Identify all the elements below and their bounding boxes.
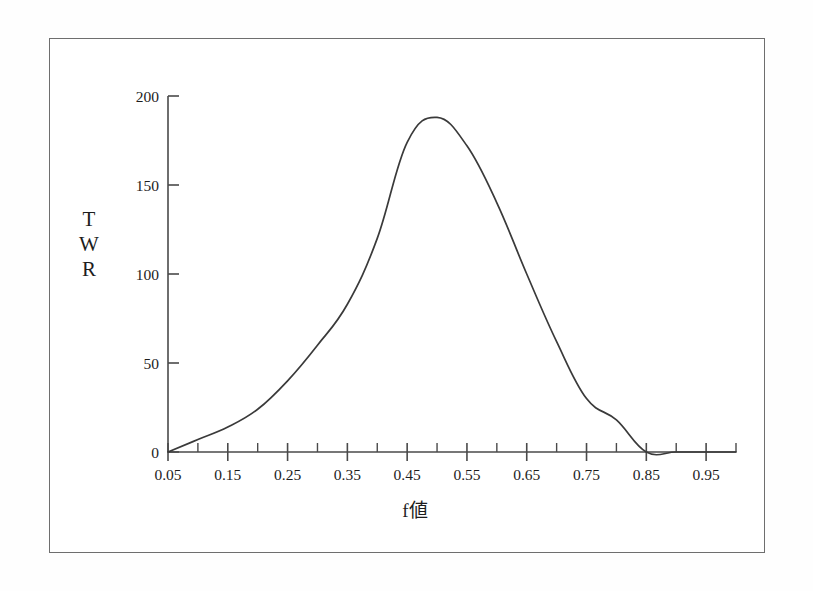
y-axis-tick-labels: 050100150200 [136,88,160,461]
x-tick-label-0.95: 0.95 [693,466,720,483]
y-tick-label-0: 0 [151,444,159,461]
figure-root: 050100150200 0.050.150.250.350.450.550.6… [0,0,813,591]
y-axis-title-line-3: R [72,257,106,282]
x-tick-label-0.45: 0.45 [394,466,421,483]
x-tick-label-0.55: 0.55 [453,466,480,483]
x-tick-label-0.75: 0.75 [573,466,600,483]
y-axis-ticks [168,96,179,452]
x-tick-label-0.05: 0.05 [154,466,181,483]
x-axis-title: f値 [330,495,500,522]
x-tick-label-0.85: 0.85 [633,466,660,483]
twr-curve [168,117,736,454]
y-axis-title: T W R [72,207,106,282]
x-axis-tick-labels: 0.050.150.250.350.450.550.650.750.850.95 [154,466,719,483]
y-tick-label-100: 100 [136,266,160,283]
y-axis-title-line-2: W [72,232,106,257]
y-tick-label-50: 50 [144,355,160,372]
y-axis-title-line-1: T [72,207,106,232]
x-tick-label-0.65: 0.65 [513,466,540,483]
x-tick-label-0.25: 0.25 [274,466,301,483]
x-tick-label-0.15: 0.15 [214,466,241,483]
y-tick-label-200: 200 [136,88,160,105]
x-tick-label-0.35: 0.35 [334,466,361,483]
y-tick-label-150: 150 [136,177,160,194]
axis-lines [168,96,736,452]
